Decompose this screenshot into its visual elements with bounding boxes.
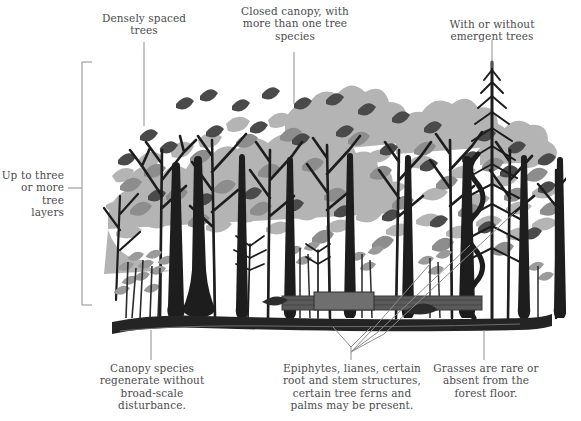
- label-emergent-trees: With or without emergent trees: [424, 18, 560, 43]
- label-grasses: Grasses are rare or absent from the fore…: [424, 362, 548, 399]
- forest-body: [104, 62, 572, 318]
- label-closed-canopy: Closed canopy, with more than one tree s…: [222, 5, 368, 42]
- rainforest-illustration: [0, 0, 581, 421]
- label-tree-layers: Up to three or more tree layers: [0, 169, 64, 219]
- label-densely-spaced-trees: Densely spaced trees: [82, 12, 206, 37]
- tree-layers-bracket: [68, 62, 92, 305]
- forest-floor: [112, 314, 552, 334]
- figure-canvas: Densely spaced trees Closed canopy, with…: [0, 0, 581, 421]
- label-epiphytes: Epiphytes, lianes, certain root and stem…: [276, 362, 428, 412]
- label-canopy-regeneration: Canopy species regenerate without broad-…: [86, 362, 218, 412]
